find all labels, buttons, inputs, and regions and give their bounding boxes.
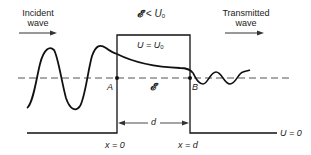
- energy-level-label: 𝓔: [150, 82, 156, 92]
- incident-label-line1: Incident: [18, 8, 58, 18]
- floor-potential-label: U = 0: [280, 128, 302, 138]
- incident-wave-label: Incident wave: [18, 8, 58, 28]
- x-d-label: x = d: [178, 140, 198, 150]
- point-b-label: B: [192, 82, 198, 92]
- x-zero-label: x = 0: [105, 140, 125, 150]
- point-a-dot: [115, 76, 119, 80]
- width-d-arrowhead-left-icon: [118, 121, 125, 126]
- width-d-arrowhead-right-icon: [182, 121, 189, 126]
- energy-condition-label: 𝓔 < U0: [137, 9, 165, 21]
- transmitted-label-line2: wave: [221, 18, 271, 28]
- transmitted-arrowhead-icon: [257, 31, 264, 36]
- transmitted-label-line1: Transmitted: [221, 8, 271, 18]
- point-b-dot: [188, 76, 192, 80]
- barrier-width-label: d: [151, 117, 156, 127]
- barrier-u-text: U = U: [137, 40, 160, 50]
- transmitted-wave-curve: [193, 70, 250, 84]
- incident-label-line2: wave: [18, 18, 58, 28]
- barrier-height-label: U = U0: [137, 40, 164, 52]
- decaying-wave-curve: [117, 54, 193, 73]
- incident-arrowhead-icon: [50, 31, 57, 36]
- condition-subscript: 0: [162, 13, 165, 19]
- barrier-u-subscript: 0: [160, 44, 163, 50]
- condition-operator: < U: [143, 8, 162, 19]
- point-a-label: A: [107, 82, 113, 92]
- transmitted-wave-label: Transmitted wave: [221, 8, 271, 28]
